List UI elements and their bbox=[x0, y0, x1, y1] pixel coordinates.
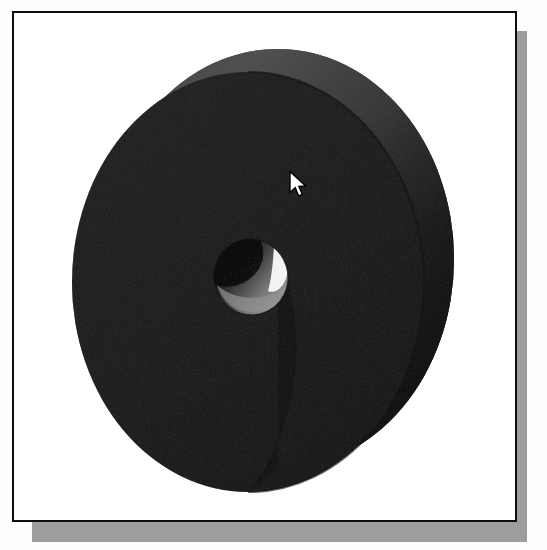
model-viewport-canvas[interactable] bbox=[14, 13, 515, 520]
disc-model-render[interactable] bbox=[14, 13, 515, 520]
model-viewport-frame[interactable] bbox=[12, 11, 517, 522]
screen-root bbox=[0, 0, 547, 550]
